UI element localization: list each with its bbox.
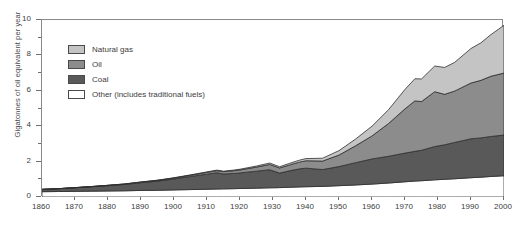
legend-item: Oil [68,57,205,72]
legend-label: Coal [92,75,108,84]
legend-label: Other (includes traditional fuels) [92,90,205,99]
x-tick-label: 1980 [420,202,454,211]
legend-item: Other (includes traditional fuels) [68,87,205,102]
stacked-area-chart: Gigatonnes of oil equivalent per year 02… [0,0,529,246]
y-tick-label: 2 [7,156,31,165]
y-tick-mark [36,196,41,197]
legend-item: Coal [68,72,205,87]
x-tick-label: 1870 [57,202,91,211]
y-tick-label: 0 [7,191,31,200]
x-tick-label: 1960 [354,202,388,211]
y-tick-label: 6 [7,85,31,94]
x-tick-label: 1950 [321,202,355,211]
x-tick-label: 1930 [255,202,289,211]
y-tick-label: 8 [7,49,31,58]
x-tick-label: 1910 [189,202,223,211]
legend-swatch [68,60,85,69]
x-tick-label: 2000 [486,202,520,211]
legend-swatch [68,45,85,54]
x-tick-label: 1890 [123,202,157,211]
x-tick-label: 1920 [222,202,256,211]
legend-swatch [68,75,85,84]
legend-swatch [68,90,85,99]
legend-label: Natural gas [92,45,133,54]
x-tick-label: 1880 [90,202,124,211]
x-tick-label: 1970 [387,202,421,211]
x-tick-label: 1900 [156,202,190,211]
legend-item: Natural gas [68,42,205,57]
legend-label: Oil [92,60,102,69]
x-tick-label: 1940 [288,202,322,211]
plot-area: Natural gasOilCoalOther (includes tradit… [41,19,503,196]
chart-legend: Natural gasOilCoalOther (includes tradit… [68,42,205,102]
x-tick-label: 1990 [453,202,487,211]
x-tick-label: 1860 [24,202,58,211]
y-axis-label: Gigatonnes of oil equivalent per year [13,0,22,155]
y-tick-label: 10 [7,14,31,23]
y-tick-label: 4 [7,120,31,129]
